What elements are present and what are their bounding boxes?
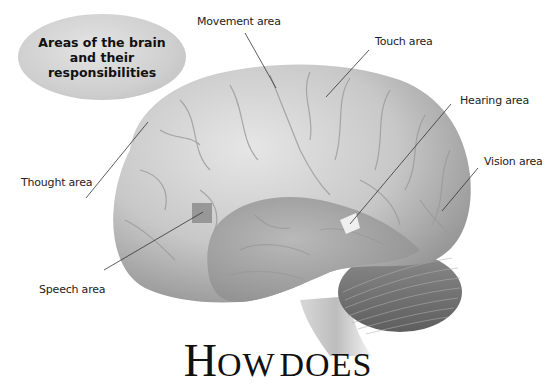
heading-second-word: DOES [280, 346, 373, 383]
callout-oval: Areas of the brain and their responsibil… [18, 14, 186, 100]
label-movement-area: Movement area [197, 15, 281, 28]
heading-word-rest: OW [217, 346, 276, 383]
label-thought-area: Thought area [21, 176, 92, 189]
label-touch-area: Touch area [375, 35, 433, 48]
label-hearing-area: Hearing area [460, 94, 529, 107]
page-heading: HOW DOES [0, 334, 556, 384]
label-speech-area: Speech area [39, 283, 105, 296]
label-vision-area: Vision area [484, 155, 543, 168]
callout-title: Areas of the brain and their responsibil… [32, 35, 172, 80]
heading-first-letter: H [184, 335, 217, 384]
brain-diagram: Areas of the brain and their responsibil… [0, 0, 556, 384]
